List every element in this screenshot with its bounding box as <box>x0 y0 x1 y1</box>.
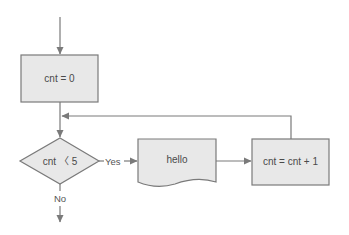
node-print: hello <box>138 139 216 186</box>
node-print-label: hello <box>166 154 188 165</box>
yes-label: Yes <box>105 156 121 167</box>
node-init: cnt = 0 <box>21 55 98 102</box>
loop-back-arrow <box>62 116 291 139</box>
node-init-label: cnt = 0 <box>44 73 75 84</box>
flowchart-canvas: cnt = 0 cnt 〈 5 Yes No hello cnt = cnt +… <box>0 0 349 235</box>
node-cond: cnt 〈 5 <box>20 138 99 184</box>
no-label: No <box>54 193 66 204</box>
node-cond-label: cnt 〈 5 <box>43 156 78 167</box>
node-incr: cnt = cnt + 1 <box>252 139 329 185</box>
node-incr-label: cnt = cnt + 1 <box>263 156 318 167</box>
